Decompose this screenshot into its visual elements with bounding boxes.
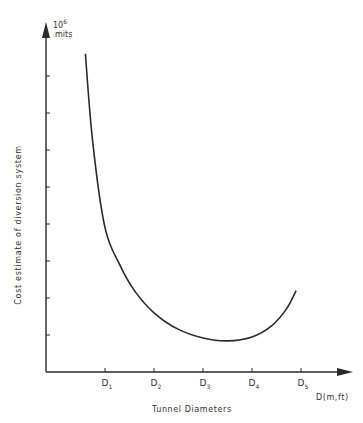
x-axis-title: Tunnel Diameters <box>152 405 232 414</box>
x-unit-label: D(m,ft) <box>316 393 349 402</box>
x-axis-arrow-icon <box>337 368 353 376</box>
y-axis-arrow-icon <box>42 22 50 38</box>
chart-canvas <box>0 0 363 423</box>
x-tick-label: D1 <box>102 378 113 390</box>
y-axis-title: Cost estimate of diversion system <box>14 145 23 305</box>
x-tick-label: D2 <box>151 378 162 390</box>
x-tick-label: D3 <box>200 378 211 390</box>
cost-curve <box>85 54 296 341</box>
x-tick-label: D5 <box>298 378 309 390</box>
x-tick-label: D4 <box>249 378 260 390</box>
y-unit-label: 106mits <box>53 17 72 39</box>
